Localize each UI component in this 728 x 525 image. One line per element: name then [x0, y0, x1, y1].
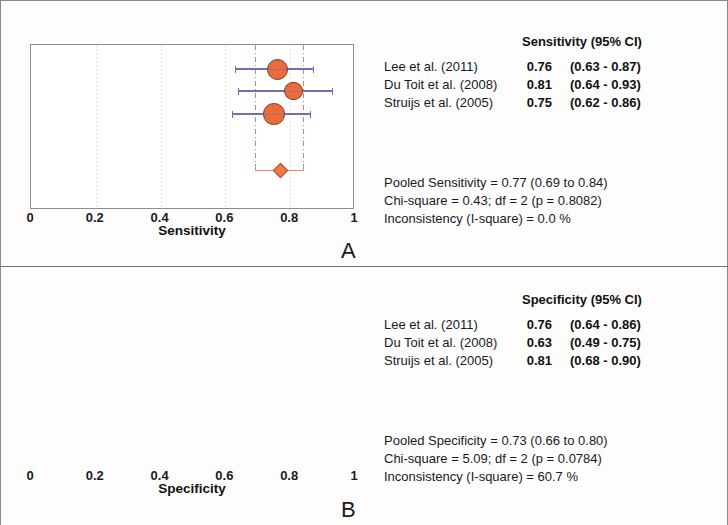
pooled-ci-high-reference-line	[303, 45, 304, 170]
study-estimate: 0.75	[506, 95, 552, 110]
x-axis-title-specificity: Specificity	[30, 481, 354, 496]
confidence-interval-cap	[232, 111, 233, 118]
pooled-ci-low-reference-line	[255, 45, 256, 170]
study-estimate: 0.81	[506, 353, 552, 368]
table-header-sensitivity: Sensitivity (95% CI)	[522, 34, 642, 49]
study-estimate: 0.81	[506, 77, 552, 92]
confidence-interval-cap	[313, 66, 314, 73]
confidence-interval-cap	[235, 66, 236, 73]
heterogeneity-chi-square-line: Chi-square = 5.09; df = 2 (p = 0.0784)	[384, 451, 602, 466]
confidence-interval-cap	[332, 88, 333, 95]
inconsistency-line: Inconsistency (I-square) = 60.7 %	[384, 469, 578, 484]
study-ci: (0.64 - 0.93)	[570, 77, 641, 92]
study-marker	[263, 103, 284, 124]
pooled-summary-line: Pooled Sensitivity = 0.77 (0.69 to 0.84)	[384, 175, 608, 190]
study-ci: (0.62 - 0.86)	[570, 95, 641, 110]
study-marker	[267, 59, 288, 80]
panel-letter-a: A	[341, 238, 356, 264]
study-name: Du Toit et al. (2008)	[384, 77, 497, 92]
study-name: Struijs et al. (2005)	[384, 95, 493, 110]
study-name: Struijs et al. (2005)	[384, 353, 493, 368]
study-marker	[284, 82, 302, 100]
pooled-summary-line: Pooled Specificity = 0.73 (0.66 to 0.80)	[384, 433, 608, 448]
panel-letter-b: B	[341, 497, 356, 523]
study-name: Lee et al. (2011)	[384, 59, 478, 74]
gridline	[225, 45, 226, 208]
plot-area-sensitivity	[30, 44, 354, 209]
confidence-interval-cap	[310, 111, 311, 118]
x-axis-title-sensitivity: Sensitivity	[30, 223, 354, 238]
heterogeneity-chi-square-line: Chi-square = 0.43; df = 2 (p = 0.8082)	[384, 193, 602, 208]
panel-specificity: 0 0.2 0.4 0.6 0.8 1 Specificity Specific…	[1, 267, 728, 525]
forest-plot-figure: 0 0.2 0.4 0.6 0.8 1 Sensitivity Sensitiv…	[0, 0, 728, 525]
study-name: Lee et al. (2011)	[384, 317, 478, 332]
pooled-estimate-diamond	[273, 162, 289, 178]
study-name: Du Toit et al. (2008)	[384, 335, 497, 350]
pooled-interval-cap	[255, 164, 256, 171]
table-header-specificity: Specificity (95% CI)	[522, 292, 642, 307]
study-ci: (0.63 - 0.87)	[570, 59, 641, 74]
panel-sensitivity: 0 0.2 0.4 0.6 0.8 1 Sensitivity Sensitiv…	[1, 1, 728, 267]
study-estimate: 0.76	[506, 317, 552, 332]
study-estimate: 0.76	[506, 59, 552, 74]
study-ci: (0.49 - 0.75)	[570, 335, 641, 350]
pooled-interval-cap	[303, 164, 304, 171]
gridline	[161, 45, 162, 208]
study-ci: (0.64 - 0.86)	[570, 317, 641, 332]
study-ci: (0.68 - 0.90)	[570, 353, 641, 368]
inconsistency-line: Inconsistency (I-square) = 0.0 %	[384, 211, 571, 226]
study-estimate: 0.63	[506, 335, 552, 350]
confidence-interval-cap	[238, 88, 239, 95]
gridline	[96, 45, 97, 208]
